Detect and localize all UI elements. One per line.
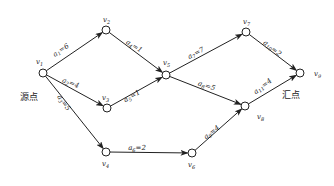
node-v1 bbox=[39, 69, 47, 77]
node-label: v9 bbox=[314, 70, 322, 79]
node-v7 bbox=[242, 28, 250, 36]
node-v6 bbox=[188, 149, 196, 157]
edge-weight-label: a1=6 bbox=[51, 42, 71, 59]
edge-weight-label: a4=1 bbox=[124, 38, 144, 55]
node-label: v3 bbox=[102, 94, 109, 103]
edge-v5-v7 bbox=[170, 34, 243, 73]
node-v3 bbox=[103, 104, 111, 112]
edge-v4-v6 bbox=[110, 152, 188, 153]
node-v5 bbox=[162, 71, 170, 79]
node-label: v5 bbox=[163, 59, 170, 68]
source-label: 源点 bbox=[20, 92, 38, 102]
node-label: v8 bbox=[257, 113, 264, 122]
node-label: v1 bbox=[36, 58, 43, 67]
node-v8 bbox=[241, 102, 249, 110]
edge-weight-label: a11=4 bbox=[252, 77, 274, 97]
edge-weight-label: a9=4 bbox=[202, 124, 221, 142]
node-label: v7 bbox=[243, 18, 251, 27]
aoe-network-diagram: a1=6a2=4a3=5a4=1a5=1a6=2a7=7a8=5a9=4a10=… bbox=[0, 0, 334, 186]
edge-weight-label: a5=1 bbox=[122, 88, 142, 104]
edge-v5-v8 bbox=[170, 76, 241, 104]
node-label: v4 bbox=[102, 160, 109, 169]
sink-label: 汇点 bbox=[282, 90, 300, 100]
node-v4 bbox=[102, 148, 110, 156]
node-label: v6 bbox=[188, 161, 196, 170]
edge-weight-label: a6=2 bbox=[128, 144, 146, 153]
edge-weight-label: a10=2 bbox=[261, 39, 283, 59]
node-v2 bbox=[102, 26, 110, 34]
node-v9 bbox=[296, 69, 304, 77]
edge-v2-v5 bbox=[109, 32, 162, 72]
edge-weight-label: a3=5 bbox=[55, 93, 72, 113]
edges-layer: a1=6a2=4a3=5a4=1a5=1a6=2a7=7a8=5a9=4a10=… bbox=[45, 32, 296, 153]
node-label: v2 bbox=[103, 16, 110, 25]
